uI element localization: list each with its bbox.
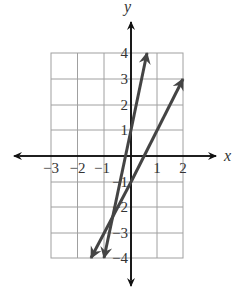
y-axis-label: y	[122, 0, 132, 16]
coordinate-graph: x y −3 −2 −1 1 2 4 3 2 1 −1 −2 −3 −4	[0, 0, 234, 290]
x-axis-label: x	[223, 147, 231, 164]
x-tick-label: −2	[70, 160, 86, 176]
y-tick-label: 2	[121, 97, 129, 113]
y-tick-label: 4	[121, 45, 129, 61]
x-tick-label: 2	[179, 160, 187, 176]
y-tick-label: 3	[121, 71, 129, 87]
x-tick-label: −1	[94, 160, 110, 176]
y-tick-label: −3	[112, 225, 128, 241]
x-tick-label: 1	[153, 160, 161, 176]
y-tick-label: 1	[121, 122, 129, 138]
x-tick-label: −3	[43, 160, 59, 176]
y-tick-label: −4	[112, 250, 128, 266]
